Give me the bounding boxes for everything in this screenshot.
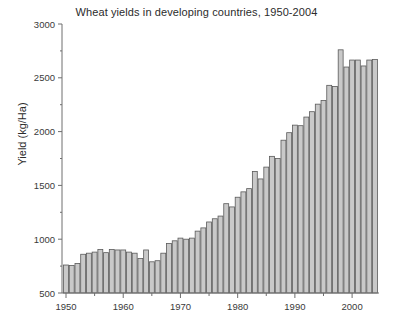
y-tick-label: 2000 bbox=[34, 126, 55, 137]
bar bbox=[252, 171, 257, 293]
bar bbox=[270, 156, 275, 293]
bar bbox=[155, 261, 160, 293]
bar bbox=[224, 204, 229, 293]
x-tick-label: 1970 bbox=[170, 301, 191, 312]
x-tick-label: 1990 bbox=[284, 301, 305, 312]
bar bbox=[92, 252, 97, 293]
bar bbox=[144, 250, 149, 293]
y-tick-label: 3000 bbox=[34, 19, 55, 30]
bar bbox=[235, 197, 240, 293]
y-tick-label: 500 bbox=[39, 288, 55, 299]
bar bbox=[281, 140, 286, 293]
bar bbox=[350, 60, 355, 293]
bar bbox=[207, 222, 212, 293]
bar bbox=[161, 253, 166, 293]
bar bbox=[172, 241, 177, 293]
bar bbox=[86, 253, 91, 293]
y-tick-label: 1000 bbox=[34, 234, 55, 245]
y-tick-label: 1500 bbox=[34, 180, 55, 191]
bar bbox=[292, 125, 297, 293]
bar bbox=[81, 254, 86, 293]
bar bbox=[189, 238, 194, 293]
bars-group bbox=[64, 50, 378, 293]
bar bbox=[310, 112, 315, 293]
bar bbox=[247, 189, 252, 293]
bar bbox=[178, 238, 183, 293]
bar bbox=[264, 167, 269, 293]
x-tick-label: 1980 bbox=[227, 301, 248, 312]
bar-chart-plot: 5001000150020002500300019501960197019801… bbox=[0, 0, 393, 325]
bar bbox=[218, 216, 223, 293]
bar bbox=[241, 192, 246, 293]
x-tick-label: 1960 bbox=[113, 301, 134, 312]
bar bbox=[361, 66, 366, 293]
bar bbox=[138, 259, 143, 293]
bar bbox=[304, 117, 309, 293]
bar bbox=[332, 86, 337, 293]
bar bbox=[321, 100, 326, 293]
bar bbox=[298, 126, 303, 293]
bar bbox=[275, 159, 280, 294]
bar bbox=[258, 179, 263, 293]
bar bbox=[212, 219, 217, 293]
y-tick-label: 2500 bbox=[34, 72, 55, 83]
bar bbox=[201, 228, 206, 293]
bar bbox=[315, 104, 320, 293]
x-tick-label: 2000 bbox=[342, 301, 363, 312]
bar bbox=[338, 50, 343, 293]
bar bbox=[126, 252, 131, 293]
bar bbox=[355, 60, 360, 293]
bar bbox=[109, 249, 114, 293]
x-tick-label: 1950 bbox=[55, 301, 76, 312]
bar bbox=[195, 231, 200, 293]
bar bbox=[69, 266, 74, 293]
bar bbox=[367, 60, 372, 293]
bar bbox=[115, 250, 120, 293]
chart-figure: Wheat yields in developing countries, 19… bbox=[0, 0, 393, 325]
bar bbox=[229, 207, 234, 293]
bar bbox=[132, 253, 137, 293]
bar bbox=[75, 263, 80, 293]
bar bbox=[287, 133, 292, 293]
bar bbox=[167, 244, 172, 294]
bar bbox=[149, 262, 154, 293]
bar bbox=[98, 249, 103, 293]
bar bbox=[64, 265, 69, 293]
bar bbox=[104, 253, 109, 293]
bar bbox=[327, 85, 332, 293]
bar bbox=[373, 60, 378, 293]
bar bbox=[121, 250, 126, 293]
bar bbox=[344, 67, 349, 293]
bar bbox=[184, 239, 189, 293]
